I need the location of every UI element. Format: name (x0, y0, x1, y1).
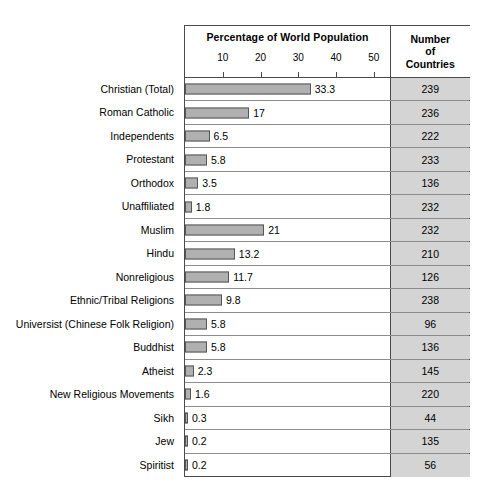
countries-header-line-1: Number (410, 33, 450, 46)
bar (185, 248, 235, 259)
bar-cell: 5.8 (185, 313, 391, 335)
bar (185, 318, 207, 329)
bar-value-label: 5.8 (211, 154, 226, 166)
category-label: Sikh (0, 407, 180, 430)
bar-value-label: 9.8 (226, 294, 241, 306)
category-label: Independents (0, 125, 180, 148)
bar-value-label: 3.5 (202, 177, 217, 189)
bar-cell: 21 (185, 219, 391, 241)
country-count-cell: 44 (391, 407, 470, 429)
country-count-cell: 239 (391, 78, 470, 100)
x-axis-tick-row: 1020304050 (185, 52, 391, 78)
category-label: Unaffiliated (0, 195, 180, 218)
category-label: Nonreligious (0, 266, 180, 289)
bar-cell: 9.8 (185, 289, 391, 311)
table-row: 5.8233 (185, 148, 469, 171)
bar-cell: 1.8 (185, 195, 391, 217)
table-row: 5.896 (185, 313, 469, 336)
bar-value-label: 0.2 (192, 459, 207, 471)
bar (185, 131, 210, 142)
bar-cell: 33.3 (185, 78, 391, 100)
bar-value-label: 1.6 (195, 388, 210, 400)
bar-cell: 17 (185, 101, 391, 123)
bar-cell: 0.2 (185, 454, 391, 477)
bar-value-label: 0.3 (192, 412, 207, 424)
category-label: Atheist (0, 360, 180, 383)
x-axis-tick-label: 20 (255, 52, 266, 63)
percentage-header-cell: Percentage of World Population 102030405… (185, 26, 391, 78)
chart-body-rows: 33.3239172366.52225.82333.51361.82322123… (185, 78, 469, 477)
bar-value-label: 21 (268, 224, 280, 236)
category-label: Christian (Total) (0, 78, 180, 101)
bar-value-label: 1.8 (196, 201, 211, 213)
category-label: Protestant (0, 148, 180, 171)
country-count-cell: 222 (391, 125, 470, 147)
bar-value-label: 6.5 (214, 130, 229, 142)
bar (185, 436, 188, 447)
bar-cell: 5.8 (185, 336, 391, 358)
bar-cell: 0.3 (185, 407, 391, 429)
bar-cell: 11.7 (185, 266, 391, 288)
category-label: Orthodox (0, 172, 180, 195)
country-count-cell: 135 (391, 430, 470, 452)
table-row: 3.5136 (185, 172, 469, 195)
table-row: 9.8238 (185, 289, 469, 312)
bar (185, 201, 192, 212)
table-row: 2.3145 (185, 360, 469, 383)
bar (185, 365, 194, 376)
bar (185, 225, 264, 236)
category-label: Muslim (0, 219, 180, 242)
bar-value-label: 5.8 (211, 341, 226, 353)
bar-value-label: 5.8 (211, 318, 226, 330)
table-row: 0.2135 (185, 430, 469, 453)
bar (185, 295, 222, 306)
category-label: Buddhist (0, 336, 180, 359)
countries-header-line-2: of (425, 45, 435, 58)
countries-header-line-3: Countries (406, 58, 455, 71)
bar-value-label: 17 (253, 107, 265, 119)
table-header: Percentage of World Population 102030405… (185, 26, 469, 78)
bar-cell: 6.5 (185, 125, 391, 147)
category-label: Universist (Chinese Folk Religion) (0, 313, 180, 336)
bar-value-label: 0.2 (192, 435, 207, 447)
bar (185, 389, 191, 400)
countries-header-cell: Number of Countries (391, 26, 470, 78)
bar (185, 271, 229, 282)
bar-cell: 2.3 (185, 360, 391, 382)
table-row: 5.8136 (185, 336, 469, 359)
x-axis-tick-label: 40 (330, 52, 341, 63)
x-axis-tick-label: 30 (293, 52, 304, 63)
table-row: 13.2210 (185, 242, 469, 265)
bar-value-label: 2.3 (198, 365, 213, 377)
bar-cell: 3.5 (185, 172, 391, 194)
bar (185, 412, 188, 423)
table-row: 11.7126 (185, 266, 469, 289)
bar (185, 84, 311, 95)
table-row: 1.6220 (185, 383, 469, 406)
bar-cell: 5.8 (185, 148, 391, 170)
bar-cell: 0.2 (185, 430, 391, 452)
bar (185, 460, 188, 471)
chart-table-frame: Percentage of World Population 102030405… (184, 25, 470, 477)
x-axis-tick-label: 50 (368, 52, 379, 63)
country-count-cell: 145 (391, 360, 470, 382)
x-axis-tick-label: 10 (217, 52, 228, 63)
country-count-cell: 56 (391, 454, 470, 477)
table-row: 1.8232 (185, 195, 469, 218)
bar-cell: 1.6 (185, 383, 391, 405)
category-label-column: Christian (Total)Roman CatholicIndepende… (0, 78, 180, 477)
category-label: New Religious Movements (0, 383, 180, 406)
bar (185, 178, 198, 189)
category-label: Spiritist (0, 454, 180, 477)
country-count-cell: 220 (391, 383, 470, 405)
religion-population-chart: Christian (Total)Roman CatholicIndepende… (0, 0, 494, 500)
country-count-cell: 136 (391, 336, 470, 358)
bar-value-label: 11.7 (233, 271, 253, 283)
bar (185, 154, 207, 165)
category-label: Hindu (0, 242, 180, 265)
bar-value-label: 13.2 (239, 248, 259, 260)
percentage-header-title: Percentage of World Population (185, 31, 390, 43)
country-count-cell: 232 (391, 195, 470, 217)
category-label: Ethnic/Tribal Religions (0, 289, 180, 312)
country-count-cell: 232 (391, 219, 470, 241)
